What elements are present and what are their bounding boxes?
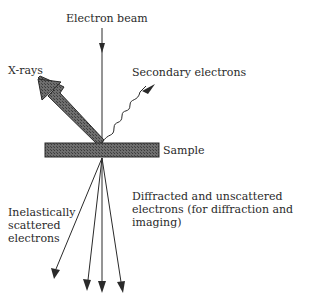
electron-beam-label: Electron beam xyxy=(66,12,148,25)
inelastic-line-2: scattered xyxy=(8,219,83,232)
sample-label: Sample xyxy=(163,144,205,157)
xrays-label: X-rays xyxy=(8,64,43,77)
diffracted-line-2: electrons (for diffraction and imaging) xyxy=(132,203,332,229)
xray-arrow-icon xyxy=(38,76,104,145)
sample-block xyxy=(45,143,159,157)
inelastic-scattered-label: Inelastically scattered electrons xyxy=(8,206,83,245)
inelastic-line-1: Inelastically xyxy=(8,206,83,219)
electron-interaction-diagram: Electron beam X-rays Secondary electrons… xyxy=(0,0,334,302)
inelastic-line-3: electrons xyxy=(8,232,83,245)
diffracted-line-1: Diffracted and unscattered xyxy=(132,190,332,203)
diffracted-unscattered-label: Diffracted and unscattered electrons (fo… xyxy=(132,190,332,229)
electron-beam-arrow xyxy=(99,28,105,145)
secondary-electron-wavy-arrow xyxy=(102,84,155,143)
secondary-electrons-label: Secondary electrons xyxy=(132,66,246,79)
